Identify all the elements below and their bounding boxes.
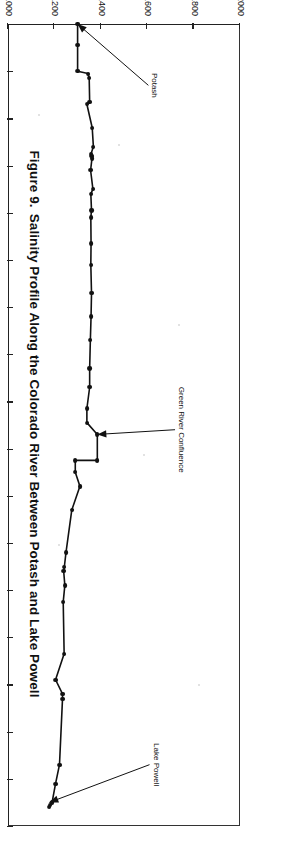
annotation-leader-green-river-confluence — [97, 430, 175, 435]
annotation-label-potash: Potash — [150, 73, 159, 98]
scan-speckle — [58, 544, 60, 546]
annotation-arrows — [8, 24, 240, 826]
figure-caption: Figure 9.Salinity Profile Along the Colo… — [27, 0, 42, 848]
y-tick-label-1600: 1600 — [143, 0, 152, 16]
annotation-arrowhead-green-river-confluence — [97, 430, 106, 437]
y-tick-label-1000: 1000 — [4, 0, 13, 16]
annotation-label-lake-powell: Lake Powell — [151, 743, 160, 786]
figure-rotated-container: 0246810121416182022242628303234 10001200… — [0, 0, 294, 848]
annotation-arrowhead-lake-powell — [49, 796, 59, 803]
x-tick-34 — [7, 826, 13, 827]
scan-speckle — [198, 684, 200, 686]
scan-speckle — [143, 454, 145, 456]
y-tick-label-1400: 1400 — [96, 0, 105, 16]
chart-plot-area: 0246810121416182022242628303234 10001200… — [8, 24, 240, 826]
y-tick-label-1800: 1800 — [189, 0, 198, 16]
annotation-leader-lake-powell — [49, 765, 149, 803]
y-tick-label-1200: 1200 — [50, 0, 59, 16]
annotation-leader-potash — [78, 24, 149, 85]
figure-caption-text: Salinity Profile Along the Colorado Rive… — [27, 214, 42, 698]
scan-speckle — [178, 324, 180, 326]
y-tick-label-2000: 2000 — [236, 0, 245, 16]
scan-speckle — [118, 144, 120, 146]
annotation-label-green-river-confluence: Green River Confluence — [177, 387, 186, 473]
figure-number: Figure 9. — [27, 151, 42, 208]
